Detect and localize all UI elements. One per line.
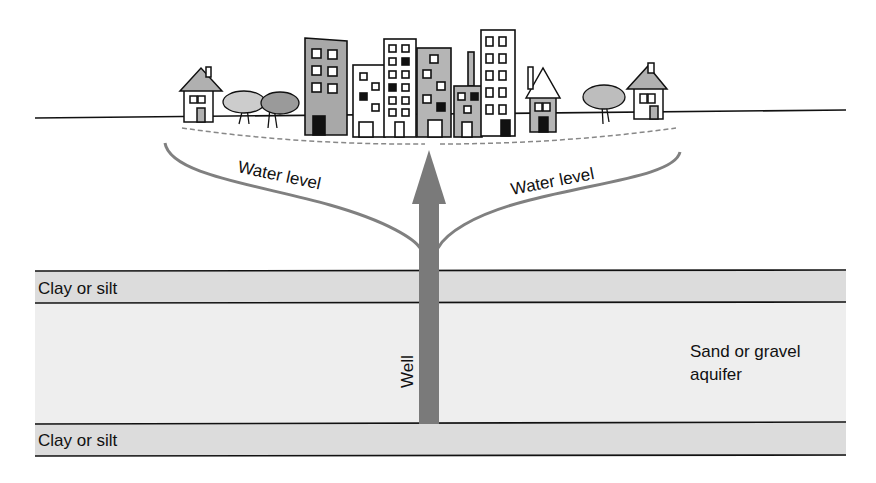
layer-boundary bbox=[35, 455, 846, 456]
cone-of-depression-curve bbox=[438, 152, 680, 248]
layer-boundary bbox=[35, 270, 846, 271]
house-right bbox=[627, 63, 667, 119]
tree bbox=[261, 92, 299, 128]
layers bbox=[35, 270, 846, 456]
building-6 bbox=[481, 30, 515, 136]
groundwater-diagram: Water level Water level Well Clay or sil… bbox=[0, 0, 876, 483]
water-level-label-left: Water level bbox=[236, 157, 323, 193]
house-left bbox=[180, 67, 222, 122]
layer-boundary bbox=[35, 302, 846, 303]
well-label: Well bbox=[398, 355, 417, 388]
clay-layer-top-label: Clay or silt bbox=[38, 279, 118, 298]
clay-layer-bottom-label: Clay or silt bbox=[38, 431, 118, 450]
diagram-canvas: Water level Water level Well Clay or sil… bbox=[0, 0, 876, 483]
building-2 bbox=[353, 65, 385, 137]
house-mid bbox=[526, 67, 560, 132]
building-3 bbox=[384, 39, 416, 137]
aquifer-label-line1: Sand or gravel bbox=[690, 342, 801, 361]
clay-layer-bottom bbox=[35, 423, 846, 456]
aquifer-layer bbox=[35, 302, 846, 423]
clay-layer-top bbox=[35, 271, 846, 302]
building-4 bbox=[417, 48, 451, 137]
aquifer-label-line2: aquifer bbox=[690, 365, 742, 384]
tree bbox=[583, 85, 625, 124]
cone-of-depression-curve bbox=[165, 143, 420, 248]
tree bbox=[223, 91, 265, 124]
building-5 bbox=[454, 52, 482, 137]
building-1 bbox=[305, 38, 347, 135]
